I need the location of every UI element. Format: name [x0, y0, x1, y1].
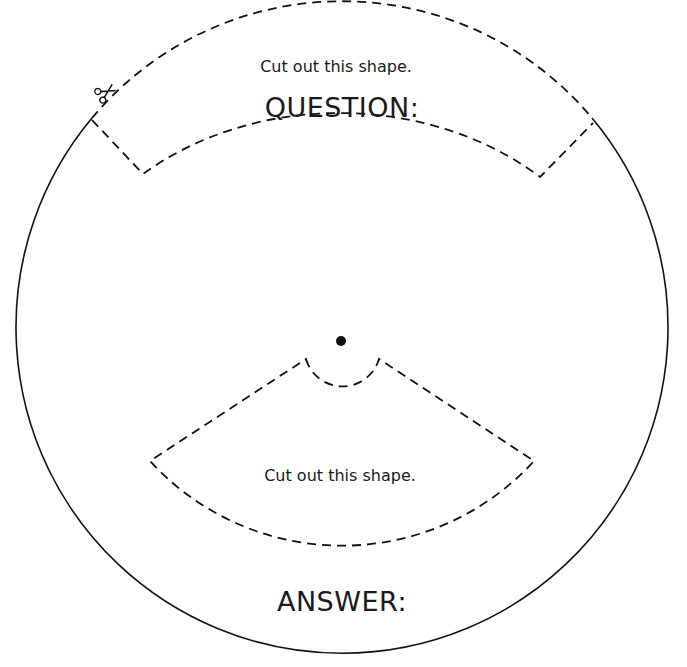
question-heading: QUESTION: — [265, 92, 420, 123]
spinner-wheel-worksheet: Cut out this shape. QUESTION: Cut out th… — [0, 0, 687, 667]
answer-heading: ANSWER: — [277, 586, 407, 617]
bottom-sector-cut-line — [150, 359, 534, 546]
top-cut-instruction: Cut out this shape. — [260, 57, 412, 76]
center-pivot-dot — [336, 336, 346, 346]
bottom-cut-instruction: Cut out this shape. — [264, 466, 416, 485]
